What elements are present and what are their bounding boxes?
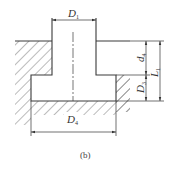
label-L1: L1 (148, 68, 161, 78)
dimension-D1: D1 (52, 7, 96, 20)
label-d4: d4 (134, 54, 147, 63)
label-D1: D1 (67, 7, 79, 20)
t-slot-section-diagram: D1 d4 D3 L1 D4 (b) (0, 0, 175, 172)
figure-caption: (b) (80, 150, 91, 160)
label-D3: D3 (134, 82, 147, 94)
